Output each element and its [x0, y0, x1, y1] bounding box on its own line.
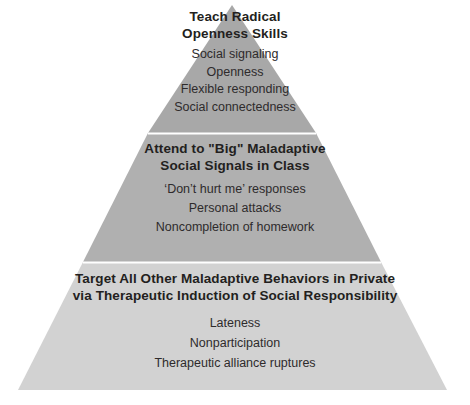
tier-bottom-item-3: Therapeutic alliance ruptures [0, 353, 470, 373]
tier-top-item-4: Social connectedness [0, 99, 470, 117]
tier-middle-heading-line-1: Attend to "Big" Maladaptive [0, 140, 470, 157]
tier-bottom-item-1: Lateness [0, 313, 470, 333]
tier-middle-item-1: ‘Don’t hurt me’ responses [0, 180, 470, 199]
pyramid-tier-bottom: Target All Other Maladaptive Behaviors i… [0, 270, 470, 373]
pyramid-diagram: Teach Radical Openness Skills Social sig… [0, 0, 470, 405]
tier-middle-item-3: Noncompletion of homework [0, 218, 470, 237]
tier-bottom-item-2: Nonparticipation [0, 333, 470, 353]
tier-bottom-heading-line-1: Target All Other Maladaptive Behaviors i… [0, 270, 470, 287]
tier-bottom-heading-line-2: via Therapeutic Induction of Social Resp… [0, 287, 470, 304]
pyramid-tier-top: Teach Radical Openness Skills Social sig… [0, 8, 470, 116]
tier-top-item-1: Social signaling [0, 46, 470, 64]
tier-top-heading-line-1: Teach Radical [0, 8, 470, 25]
tier-top-heading-line-2: Openness Skills [0, 25, 470, 42]
tier-bottom-items: Lateness Nonparticipation Therapeutic al… [0, 313, 470, 373]
tier-middle-heading-line-2: Social Signals in Class [0, 157, 470, 174]
tier-top-item-3: Flexible responding [0, 81, 470, 99]
tier-middle-heading: Attend to "Big" Maladaptive Social Signa… [0, 140, 470, 174]
tier-middle-items: ‘Don’t hurt me’ responses Personal attac… [0, 180, 470, 237]
pyramid-text-layer: Teach Radical Openness Skills Social sig… [0, 0, 470, 405]
tier-middle-item-2: Personal attacks [0, 199, 470, 218]
tier-top-heading: Teach Radical Openness Skills [0, 8, 470, 42]
tier-top-items: Social signaling Openness Flexible respo… [0, 46, 470, 116]
tier-bottom-heading: Target All Other Maladaptive Behaviors i… [0, 270, 470, 304]
tier-top-item-2: Openness [0, 64, 470, 82]
pyramid-tier-middle: Attend to "Big" Maladaptive Social Signa… [0, 140, 470, 237]
